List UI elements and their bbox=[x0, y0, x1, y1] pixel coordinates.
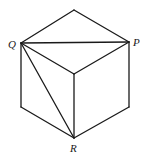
label-p: P bbox=[132, 36, 140, 48]
cube-diagram: Q P R bbox=[0, 0, 148, 157]
cube-diagonals bbox=[21, 42, 129, 138]
cube-edges bbox=[21, 10, 129, 138]
edge-p-center bbox=[74, 42, 129, 74]
edge-bottom-right-r bbox=[74, 107, 129, 138]
label-q: Q bbox=[8, 38, 16, 50]
diagonal-q-r bbox=[21, 43, 74, 138]
edge-top-p bbox=[74, 10, 129, 42]
label-r: R bbox=[69, 142, 77, 154]
edge-top-q bbox=[21, 10, 74, 43]
diagonal-q-p bbox=[21, 42, 129, 43]
